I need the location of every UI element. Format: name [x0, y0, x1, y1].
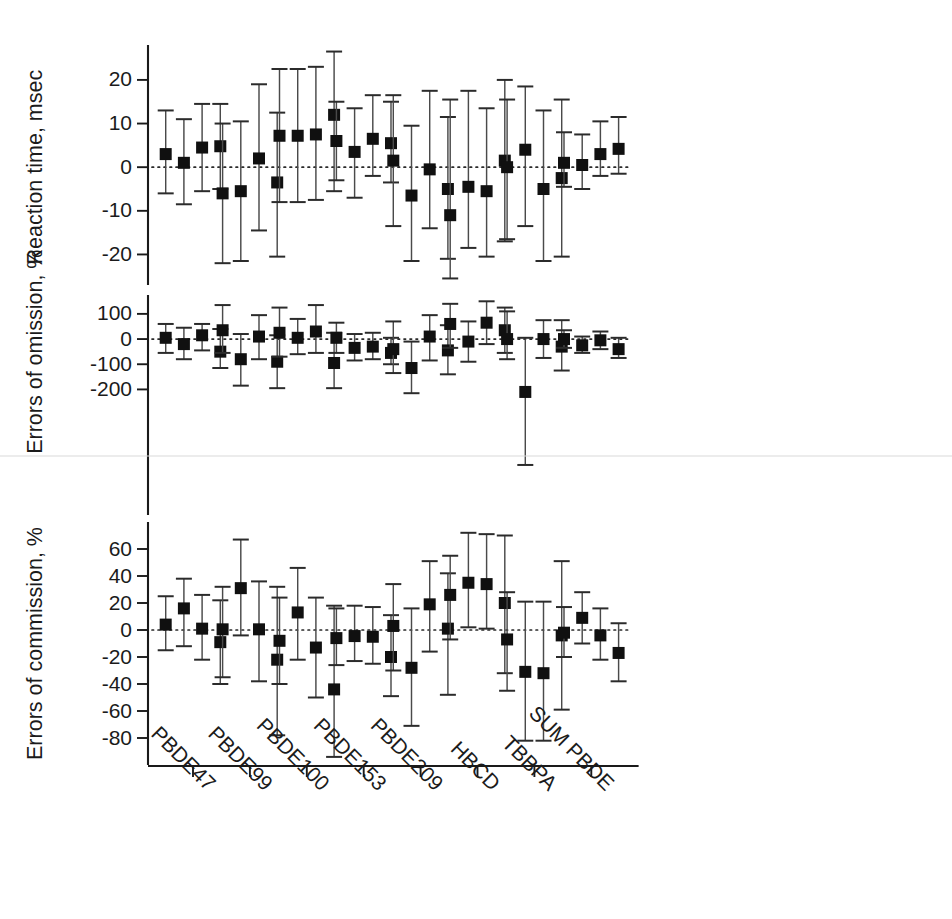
error-bar-point [592, 608, 608, 659]
error-bar-point [611, 338, 627, 358]
estimate-marker [214, 140, 226, 152]
error-bar-point [385, 321, 401, 373]
error-bar-point [404, 342, 420, 394]
estimate-marker [613, 143, 625, 155]
estimate-marker [501, 161, 513, 173]
y-tick-label-errors-of-omission-0: 100 [97, 301, 132, 324]
error-bar-point [347, 606, 363, 661]
error-bar-point [158, 596, 174, 650]
error-bar-point [272, 598, 288, 684]
estimate-marker [613, 343, 625, 355]
error-bar-point [269, 335, 285, 388]
error-bar-point [212, 104, 228, 189]
error-bar-point [308, 598, 324, 698]
estimate-marker [235, 353, 247, 365]
error-bar-point [347, 108, 363, 197]
error-bar-point [290, 69, 306, 202]
estimate-marker [385, 651, 397, 663]
error-bar-point [365, 333, 381, 359]
estimate-marker [501, 333, 513, 345]
error-bar-point [499, 100, 515, 240]
estimate-marker [196, 142, 208, 154]
group-reaction-time-PBDE99 [215, 84, 286, 263]
error-bar-point [517, 338, 533, 465]
estimate-marker [349, 146, 361, 158]
error-bar-point [479, 301, 495, 344]
y-tick-label-reaction-time-0: 20 [109, 67, 132, 90]
y-tick-label-errors-of-commission-4: -20 [102, 645, 132, 668]
estimate-marker [538, 667, 550, 679]
estimate-marker [387, 343, 399, 355]
estimate-marker [330, 135, 342, 147]
group-reaction-time-PBDE209 [385, 91, 456, 261]
y-tick-label-errors-of-omission-3: -200 [90, 377, 132, 400]
error-bar-point [592, 332, 608, 350]
estimate-marker [444, 589, 456, 601]
y-tick-label-errors-of-omission-1: 0 [120, 327, 132, 350]
estimate-marker [481, 317, 493, 329]
y-tick-label-reaction-time-4: -20 [102, 242, 132, 265]
estimate-marker [556, 172, 568, 184]
estimate-marker [328, 357, 340, 369]
error-bar-point [442, 304, 458, 348]
estimate-marker [310, 128, 322, 140]
estimate-marker [214, 636, 226, 648]
error-bar-point [422, 91, 438, 228]
estimate-marker [406, 362, 418, 374]
y-axis-title-reaction-time: Reaction time, msec [23, 70, 47, 265]
y-tick-label-errors-of-commission-3: 0 [120, 618, 132, 641]
group-errors-of-commission-HBCD [442, 533, 513, 673]
estimate-marker [217, 187, 229, 199]
estimate-marker [253, 331, 265, 343]
estimate-marker [271, 654, 283, 666]
error-bar-point [422, 315, 438, 360]
y-tick-label-reaction-time-2: 0 [120, 155, 132, 178]
error-bar-point [212, 600, 228, 684]
estimate-marker [424, 598, 436, 610]
error-bar-point [422, 561, 438, 651]
estimate-marker [271, 176, 283, 188]
error-bar-point [440, 117, 456, 259]
error-bar-point [194, 104, 210, 191]
y-tick-label-errors-of-commission-6: -60 [102, 699, 132, 722]
error-bar-point [574, 592, 590, 643]
estimate-marker [214, 346, 226, 358]
estimate-marker [178, 157, 190, 169]
error-bar-point [554, 320, 570, 370]
error-bar-point [272, 308, 288, 357]
error-bar-point [290, 568, 306, 660]
estimate-marker [519, 144, 531, 156]
estimate-marker [328, 683, 340, 695]
estimate-marker [442, 183, 454, 195]
estimate-marker [558, 333, 570, 345]
estimate-marker [160, 332, 172, 344]
estimate-marker [594, 334, 606, 346]
group-reaction-time-TBBPA [499, 86, 570, 261]
group-errors-of-commission-SUM-PBDE [556, 592, 627, 681]
error-bar-point [385, 95, 401, 226]
estimate-marker [292, 606, 304, 618]
estimate-marker [424, 331, 436, 343]
error-bar-point [269, 587, 285, 736]
error-bar-point [460, 321, 476, 361]
forest-plot-figure: 20100-10-20Reaction time, msec1000-100-2… [0, 0, 952, 919]
y-tick-label-errors-of-commission-5: -40 [102, 672, 132, 695]
estimate-marker [217, 623, 229, 635]
estimate-marker [462, 336, 474, 348]
estimate-marker [387, 155, 399, 167]
error-bar-point [176, 328, 192, 359]
error-bar-point [176, 579, 192, 647]
estimate-marker [253, 152, 265, 164]
estimate-marker [235, 582, 247, 594]
error-bar-point [611, 117, 627, 174]
error-bar-point [158, 324, 174, 353]
error-bar-point [194, 324, 210, 350]
estimate-marker [178, 338, 190, 350]
estimate-marker [576, 339, 588, 351]
estimate-marker [594, 629, 606, 641]
error-bar-point [194, 595, 210, 660]
y-tick-label-errors-of-commission-1: 40 [109, 564, 132, 587]
estimate-marker [310, 326, 322, 338]
error-bar-point [308, 67, 324, 200]
error-bar-point [554, 100, 570, 257]
